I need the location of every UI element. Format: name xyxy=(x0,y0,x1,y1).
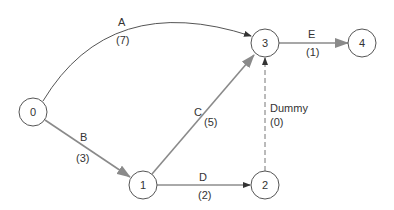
edge-dummy-duration: (0) xyxy=(270,116,283,128)
edge-c: C (5) xyxy=(152,55,254,174)
edge-c-duration: (5) xyxy=(204,116,217,128)
node-0: 0 xyxy=(19,98,47,126)
node-3: 3 xyxy=(251,29,279,57)
edge-d-activity: D xyxy=(199,171,207,183)
edge-b-activity: B xyxy=(80,131,87,143)
node-4: 4 xyxy=(348,29,376,57)
edge-b: B (3) xyxy=(45,120,130,177)
edge-e: E (1) xyxy=(279,28,348,58)
edge-a-duration: (7) xyxy=(116,34,129,46)
node-4-label: 4 xyxy=(359,37,365,49)
edge-b-duration: (3) xyxy=(76,152,89,164)
edge-d: D (2) xyxy=(157,171,250,201)
node-2-label: 2 xyxy=(262,179,268,191)
edge-c-activity: C xyxy=(194,106,202,118)
edge-b-line xyxy=(45,120,130,177)
edge-e-duration: (1) xyxy=(306,46,319,58)
edge-e-activity: E xyxy=(308,28,315,40)
edge-dummy-activity: Dummy xyxy=(270,102,308,114)
node-0-label: 0 xyxy=(30,106,36,118)
network-diagram: A (7) B (3) C (5) D (2) Dummy (0) E (1) … xyxy=(0,0,394,210)
node-3-label: 3 xyxy=(262,37,268,49)
node-1-label: 1 xyxy=(140,179,146,191)
edge-d-duration: (2) xyxy=(198,189,211,201)
edge-c-line xyxy=(152,55,254,174)
edge-dummy: Dummy (0) xyxy=(265,58,308,171)
edge-a-activity: A xyxy=(118,16,126,28)
edge-a: A (7) xyxy=(43,16,251,101)
node-1: 1 xyxy=(129,171,157,199)
edge-a-line xyxy=(43,23,251,101)
node-2: 2 xyxy=(251,171,279,199)
